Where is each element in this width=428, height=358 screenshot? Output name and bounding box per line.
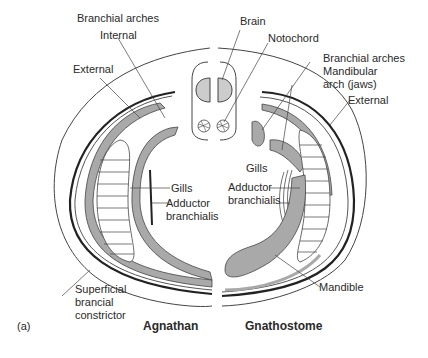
brain-left [196, 78, 210, 102]
label-external-left: External [73, 63, 113, 76]
panel-label: (a) [17, 320, 30, 332]
label-adductor-right-1: Adductor [228, 181, 272, 194]
label-mandibular-2: arch (jaws) [323, 78, 377, 91]
label-internal: Internal [100, 29, 137, 42]
label-mandible: Mandible [319, 281, 364, 294]
label-gills-right: Gills [246, 162, 267, 175]
label-brain: Brain [240, 15, 266, 28]
neural-box [192, 62, 236, 140]
label-superficial-3: constrictor [75, 309, 126, 322]
label-adductor-left-2: branchialis [166, 210, 219, 223]
label-superficial-1: Superficial [75, 283, 126, 296]
label-gills-left: Gills [171, 182, 192, 195]
label-branchial-arches-left: Branchial arches [77, 12, 159, 25]
label-adductor-left-1: Adductor [166, 197, 210, 210]
label-adductor-right-2: branchialis [228, 194, 281, 207]
title-gnathostome: Gnathostome [245, 319, 322, 333]
label-mandibular-1: Mandibular [323, 65, 377, 78]
label-superficial-2: brancial [75, 296, 114, 309]
label-branchial-arches-right: Branchial arches [323, 52, 405, 65]
label-external-right: External [348, 94, 388, 107]
label-notochord: Notochord [268, 32, 319, 45]
brain-right [218, 78, 232, 102]
title-agnathan: Agnathan [143, 319, 198, 333]
